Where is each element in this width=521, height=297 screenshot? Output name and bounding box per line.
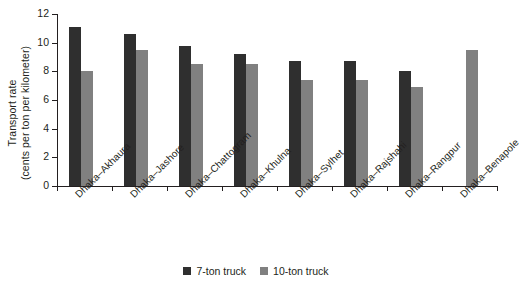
y-axis-line [57,14,58,186]
bar [234,54,246,186]
y-axis-tick: 12 [52,14,57,15]
y-axis-tick: 8 [52,71,57,72]
bar [344,61,356,186]
bar [246,64,258,186]
y-axis-tick-label: 12 [37,7,49,19]
x-axis-tick [57,186,58,191]
x-axis-tick [442,186,443,191]
x-axis-tick [387,186,388,191]
bar-group [179,14,203,186]
bar [81,71,93,186]
bar [301,80,313,186]
y-axis-tick-label: 0 [43,179,49,191]
y-axis-tick: 2 [52,157,57,158]
chart-legend: 7-ton truck 10-ton truck [0,265,512,277]
bar [124,34,136,186]
y-axis-tick: 4 [52,129,57,130]
y-axis-tick: 10 [52,43,57,44]
y-axis-tick: 6 [52,100,57,101]
x-axis-tick [277,186,278,191]
bar [466,50,478,186]
y-axis-title: Transport rate (cents per ton per kilome… [6,28,40,198]
bar-group [454,14,478,186]
bar-group [344,14,368,186]
bar [179,46,191,186]
bar [289,61,301,186]
bar [399,71,411,186]
bar [69,27,81,186]
legend-swatch-10-ton-truck [260,267,268,275]
bar-group [69,14,93,186]
y-axis-tick-label: 4 [43,122,49,134]
y-axis-tick-label: 8 [43,64,49,76]
legend-item-7-ton-truck: 7-ton truck [183,265,246,277]
x-axis-tick [167,186,168,191]
y-axis-tick-label: 2 [43,150,49,162]
y-axis-tick-label: 6 [43,93,49,105]
legend-item-10-ton-truck: 10-ton truck [260,265,328,277]
legend-label-7-ton-truck: 7-ton truck [196,265,246,277]
bar-group [289,14,313,186]
x-axis-tick [112,186,113,191]
legend-swatch-7-ton-truck [183,267,191,275]
bar [411,87,423,186]
y-axis-title-line-2: (cents per ton per kilometer) [19,28,32,198]
bar [191,64,203,186]
x-axis-tick [222,186,223,191]
x-axis-tick [497,186,498,191]
legend-label-10-ton-truck: 10-ton truck [273,265,328,277]
y-axis-title-line-1: Transport rate [6,28,19,198]
bar-group [234,14,258,186]
bar [136,50,148,186]
y-axis-tick-label: 10 [37,36,49,48]
bar [356,80,368,186]
x-axis-tick [332,186,333,191]
bar-group [124,14,148,186]
bar-group [399,14,423,186]
